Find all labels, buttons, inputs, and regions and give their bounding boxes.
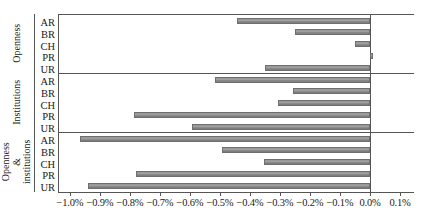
- value-axis-label-5: −0.5%: [207, 197, 234, 209]
- value-axis-tick-5: [220, 192, 221, 196]
- bar-both-ar: [80, 136, 370, 142]
- category-label-openness-ur: UR: [40, 64, 55, 76]
- bars-layer: [58, 14, 414, 192]
- bar-both-br: [222, 147, 370, 153]
- value-axis-label-3: −0.7%: [147, 197, 174, 209]
- category-label-both-ch: CH: [40, 159, 55, 171]
- bar-openness-pr: [370, 53, 373, 59]
- value-axis-tick-4: [190, 192, 191, 196]
- value-axis-label-2: −0.8%: [117, 197, 144, 209]
- value-axis-tick-1: [100, 192, 101, 196]
- value-axis-tick-0: [70, 192, 71, 196]
- category-label-openness-pr: PR: [42, 52, 55, 64]
- value-axis-tick-3: [160, 192, 161, 196]
- group-label-openness-institutions-text: Openness & institutions: [1, 140, 33, 184]
- chart-container: Openness Institutions Openness & institu…: [0, 0, 425, 222]
- category-label-institutions-ar: AR: [40, 76, 55, 88]
- bar-institutions-br: [293, 88, 370, 94]
- value-axis-label-6: −0.4%: [237, 197, 264, 209]
- value-axis-label-7: −0.3%: [267, 197, 294, 209]
- bar-institutions-ar: [215, 77, 370, 83]
- value-axis-label-4: −0.6%: [177, 197, 204, 209]
- bar-both-ur: [88, 183, 370, 189]
- bar-institutions-pr: [134, 112, 370, 118]
- value-axis-label-0: −1.0%: [57, 197, 84, 209]
- value-axis-label-9: −0.1%: [327, 197, 354, 209]
- category-label-institutions-br: BR: [41, 88, 55, 100]
- value-axis-line: [58, 192, 414, 193]
- value-axis-label-11: 0.1%: [389, 197, 410, 209]
- value-axis-tick-9: [340, 192, 341, 196]
- value-axis-tick-11: [400, 192, 401, 196]
- category-label-institutions-ch: CH: [40, 100, 55, 112]
- value-axis-tick-6: [250, 192, 251, 196]
- value-axis-tick-10: [370, 192, 371, 196]
- bar-both-pr: [136, 171, 370, 177]
- bar-openness-ar: [237, 18, 370, 24]
- category-label-institutions-pr: PR: [42, 111, 55, 123]
- bar-openness-ch: [355, 41, 370, 47]
- category-label-institutions-ur: UR: [40, 123, 55, 135]
- category-label-both-pr: PR: [42, 170, 55, 182]
- bar-openness-ur: [265, 65, 370, 71]
- bar-openness-br: [295, 29, 370, 35]
- value-axis-tick-2: [130, 192, 131, 196]
- category-label-openness-ch: CH: [40, 41, 55, 53]
- value-axis-label-1: −0.9%: [87, 197, 114, 209]
- group-label-column: Openness Institutions Openness & institu…: [0, 14, 34, 192]
- group-label-institutions-text: Institutions: [12, 80, 23, 125]
- bar-institutions-ur: [192, 124, 370, 130]
- value-axis-tick-7: [280, 192, 281, 196]
- category-label-both-br: BR: [41, 147, 55, 159]
- bar-both-ch: [264, 159, 370, 165]
- category-label-openness-br: BR: [41, 29, 55, 41]
- category-label-openness-ar: AR: [40, 17, 55, 29]
- category-label-both-ar: AR: [40, 135, 55, 147]
- bar-institutions-ch: [278, 100, 370, 106]
- category-label-both-ur: UR: [40, 182, 55, 194]
- value-axis-tick-8: [310, 192, 311, 196]
- category-label-column: AR BR CH PR UR AR BR CH PR UR AR BR CH P…: [34, 14, 58, 192]
- group-label-institutions: Institutions: [0, 73, 34, 132]
- value-axis-label-8: −0.2%: [297, 197, 324, 209]
- group-label-openness-institutions: Openness & institutions: [0, 132, 34, 192]
- value-axis-label-10: 0.0%: [359, 197, 380, 209]
- group-label-openness-text: Openness: [12, 24, 23, 63]
- group-label-openness: Openness: [0, 14, 34, 73]
